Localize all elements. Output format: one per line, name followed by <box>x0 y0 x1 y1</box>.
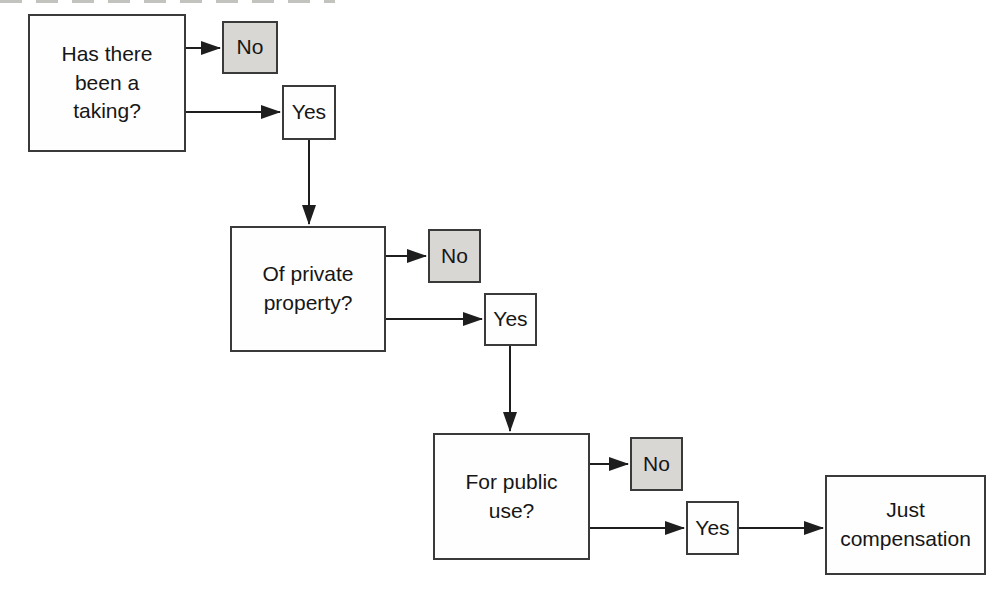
flowchart-canvas: Has there been a taking? No Yes Of priva… <box>0 0 1005 600</box>
node-no-taking: No <box>222 21 278 74</box>
node-yes-private-property: Yes <box>484 293 537 346</box>
node-just-compensation: Just compensation <box>825 475 986 575</box>
node-question-has-there-been-a-taking: Has there been a taking? <box>28 14 186 152</box>
node-no-private-property: No <box>428 229 481 283</box>
cropped-text-artifact <box>0 0 335 3</box>
node-no-public-use: No <box>630 437 683 491</box>
node-yes-taking: Yes <box>282 85 336 140</box>
node-yes-public-use: Yes <box>686 501 739 555</box>
node-question-for-public-use: For public use? <box>433 433 590 560</box>
node-question-of-private-property: Of private property? <box>230 226 386 352</box>
